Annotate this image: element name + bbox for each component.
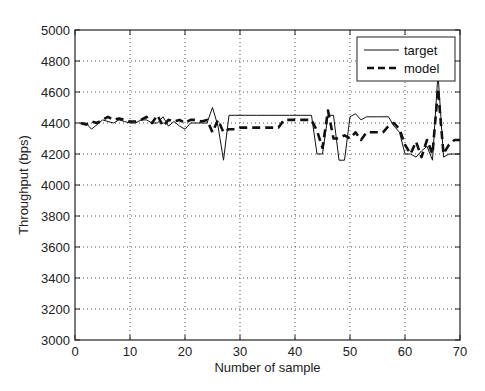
legend-label-target: target (404, 43, 438, 58)
y-tick-label: 4600 (41, 85, 70, 100)
x-tick-label: 20 (178, 344, 192, 359)
y-tick-label: 4000 (41, 178, 70, 193)
legend-label-model: model (404, 61, 440, 76)
throughput-chart: 0102030405060703000320034003600380040004… (0, 0, 485, 391)
x-tick-label: 10 (123, 344, 137, 359)
x-tick-label: 50 (343, 344, 357, 359)
x-tick-label: 60 (398, 344, 412, 359)
y-tick-label: 3600 (41, 240, 70, 255)
y-tick-label: 3000 (41, 333, 70, 348)
y-tick-label: 4400 (41, 116, 70, 131)
x-tick-label: 0 (71, 344, 78, 359)
y-tick-label: 3200 (41, 302, 70, 317)
y-axis-label: Throughput (bps) (16, 135, 31, 235)
y-tick-label: 4200 (41, 147, 70, 162)
x-tick-label: 40 (288, 344, 302, 359)
legend: target model (357, 37, 455, 81)
x-tick-label: 30 (233, 344, 247, 359)
x-axis-label: Number of sample (214, 360, 320, 375)
y-tick-label: 4800 (41, 54, 70, 69)
y-tick-label: 5000 (41, 23, 70, 38)
y-tick-label: 3400 (41, 271, 70, 286)
y-tick-label: 3800 (41, 209, 70, 224)
x-tick-label: 70 (453, 344, 467, 359)
